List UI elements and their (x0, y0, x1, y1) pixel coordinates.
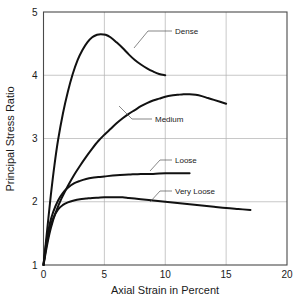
chart-container: DenseMediumLooseVery Loose 05101520 1234… (0, 0, 305, 302)
y-tick-label: 1 (32, 260, 38, 271)
x-tick-label: 15 (221, 269, 233, 280)
x-tick-label: 20 (281, 269, 293, 280)
stress-strain-chart: DenseMediumLooseVery Loose 05101520 1234… (0, 0, 305, 302)
x-axis-title: Axial Strain in Percent (111, 284, 219, 296)
y-tick-label: 4 (32, 70, 38, 81)
series-label-very-loose: Very Loose (175, 187, 216, 196)
x-tick-label: 5 (102, 269, 108, 280)
y-tick-label: 5 (32, 7, 38, 18)
y-axis-title: Principal Stress Ratio (4, 86, 16, 191)
series-label-medium: Medium (155, 115, 184, 124)
series-label-dense: Dense (175, 27, 199, 36)
y-tick-label: 2 (32, 196, 38, 207)
series-label-loose: Loose (175, 156, 197, 165)
y-tick-label: 3 (32, 133, 38, 144)
x-tick-label: 0 (41, 269, 47, 280)
x-tick-label: 10 (160, 269, 172, 280)
